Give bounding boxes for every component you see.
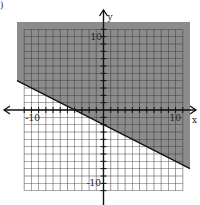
y-tick-10: 10	[91, 32, 103, 42]
inequality-graph: ) x y -10 10 10 -10	[0, 0, 200, 205]
x-tick-neg10: -10	[25, 113, 40, 123]
x-tick-10: 10	[170, 113, 182, 123]
corner-mark: )	[0, 0, 4, 10]
x-axis-label: x	[192, 115, 197, 125]
y-tick-neg10: -10	[87, 178, 102, 188]
y-axis-label: y	[107, 12, 114, 22]
